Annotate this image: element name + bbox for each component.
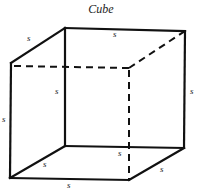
edge-label: s [113, 30, 117, 39]
edge-back-right-vertical [184, 31, 185, 148]
edge-bottom-left-diagonal [10, 146, 65, 178]
edge-front-top-hidden [14, 66, 129, 68]
edge-back-top [65, 28, 185, 31]
edge-bottom-right-diagonal [129, 148, 184, 180]
edge-back-bottom [65, 146, 184, 148]
edge-label: s [67, 181, 71, 190]
edge-top-right-diagonal-hidden [129, 31, 185, 68]
edge-label: s [2, 115, 6, 124]
edge-label: s [43, 160, 47, 169]
edge-top-left [11, 28, 65, 63]
dashed-edges [14, 31, 185, 180]
edge-front-left-vertical [10, 63, 11, 178]
edge-label: s [190, 87, 194, 96]
solid-edges [10, 28, 185, 180]
edge-label: s [27, 34, 31, 43]
edge-label: s [160, 165, 164, 174]
cube-diagram [0, 0, 202, 192]
edge-label: s [118, 149, 122, 158]
edge-label: s [55, 87, 59, 96]
